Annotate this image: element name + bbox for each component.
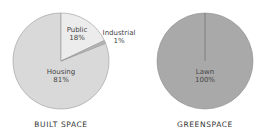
label-housing-pct: 81% [44, 76, 78, 84]
label-housing: Housing 81% [44, 68, 78, 84]
built-space-title: BUILT SPACE [0, 120, 130, 129]
label-lawn-pct: 100% [188, 76, 222, 84]
greenspace-title: GREENSPACE [136, 120, 274, 129]
label-lawn: Lawn 100% [188, 68, 222, 84]
label-industrial-name: Industrial [100, 29, 138, 37]
label-public-name: Public [62, 26, 92, 34]
label-public: Public 18% [62, 26, 92, 42]
label-public-pct: 18% [62, 34, 92, 42]
label-housing-name: Housing [44, 68, 78, 76]
label-lawn-name: Lawn [188, 68, 222, 76]
label-industrial: Industrial 1% [100, 29, 138, 45]
label-industrial-pct: 1% [100, 37, 138, 45]
built-space-chart: Public 18% Industrial 1% Housing 81% BUI… [0, 0, 138, 135]
greenspace-chart: Lawn 100% GREENSPACE [140, 0, 277, 135]
